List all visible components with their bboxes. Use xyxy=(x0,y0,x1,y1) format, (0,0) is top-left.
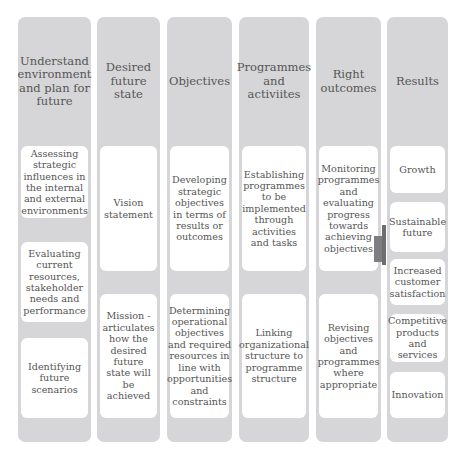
column-objectives: Objectives Developing strategic objectiv… xyxy=(167,17,232,442)
step-box: Linking organizational structure to prog… xyxy=(242,294,306,418)
column-understand-environment: Understand environment and plan for futu… xyxy=(18,17,91,442)
result-box: Increased customer satisfaction xyxy=(390,259,445,305)
step-box: Identifying future scenarios xyxy=(21,338,88,418)
arrow-bar-icon xyxy=(382,225,386,265)
column-header: Desired future state xyxy=(97,17,160,146)
step-box: Vision statement xyxy=(100,146,157,271)
step-box: Establishing programmes to be implemente… xyxy=(242,146,306,271)
result-box: Innovation xyxy=(390,372,445,418)
step-box: Determining operational objectives and r… xyxy=(170,294,229,418)
result-box: Competitive products and services xyxy=(390,314,445,362)
column-header: Objectives xyxy=(167,17,232,146)
result-box: Sustainable future xyxy=(390,202,445,252)
column-programmes-activities: Programmes and activiites Establishing p… xyxy=(239,17,309,442)
step-box: Mission - articulates how the desired fu… xyxy=(100,294,157,418)
result-box: Growth xyxy=(390,146,445,193)
step-box: Monitoring programmes and evaluating pro… xyxy=(319,146,378,271)
column-desired-future-state: Desired future state Vision statement Mi… xyxy=(97,17,160,442)
column-header: Understand environment and plan for futu… xyxy=(18,17,91,146)
column-header: Programmes and activiites xyxy=(239,17,309,146)
step-box: Evaluating current resources, stakeholde… xyxy=(21,242,88,322)
column-header: Right outcomes xyxy=(316,17,381,146)
column-header: Results xyxy=(387,17,448,146)
column-results: Results Growth Sustainable future Increa… xyxy=(387,17,448,442)
step-box: Revising objectives and programmes where… xyxy=(319,294,378,418)
step-box: Developing strategic objectives in terms… xyxy=(170,146,229,271)
step-box: Assessing strategic influences in the in… xyxy=(21,146,88,218)
column-right-outcomes: Right outcomes Monitoring programmes and… xyxy=(316,17,381,442)
